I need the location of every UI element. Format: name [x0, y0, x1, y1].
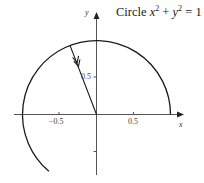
title-exp-y: 2	[178, 4, 182, 13]
title-prefix: Circle	[116, 5, 147, 19]
diagram-canvas	[0, 0, 204, 183]
circle-diagram: Circle x2 + y2 = 1 y x −0.5 0.5 0.5	[0, 0, 204, 183]
y-axis-arrow-icon	[94, 12, 100, 19]
title-exp-x: 2	[155, 4, 159, 13]
diagram-title: Circle x2 + y2 = 1	[116, 5, 202, 20]
x-tick-label-neg-half: −0.5	[49, 117, 64, 126]
x-axis-arrow-icon	[177, 112, 184, 118]
x-axis-label: x	[179, 120, 183, 129]
title-equals: = 1	[185, 5, 201, 19]
x-tick-label-pos-half: 0.5	[128, 117, 138, 126]
double-arrow-icon	[73, 56, 80, 67]
title-plus: +	[162, 5, 169, 19]
y-axis-label: y	[85, 8, 89, 17]
y-tick-label-pos-half: 0.5	[81, 72, 91, 81]
